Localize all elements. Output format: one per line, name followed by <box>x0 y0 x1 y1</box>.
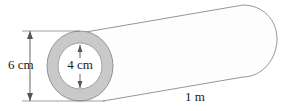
length-dimension: 1 m <box>185 89 205 104</box>
outer-dim-arrow-up <box>27 31 33 39</box>
inner-diameter-label: 4 cm <box>67 57 93 72</box>
outer-diameter-label: 6 cm <box>8 57 34 72</box>
pipe-diagram: 6 cm 4 cm 1 m <box>0 0 288 111</box>
figure-canvas: 6 cm 4 cm 1 m <box>0 0 288 111</box>
length-label: 1 m <box>185 89 205 104</box>
outer-dim-arrow-down <box>27 93 33 101</box>
